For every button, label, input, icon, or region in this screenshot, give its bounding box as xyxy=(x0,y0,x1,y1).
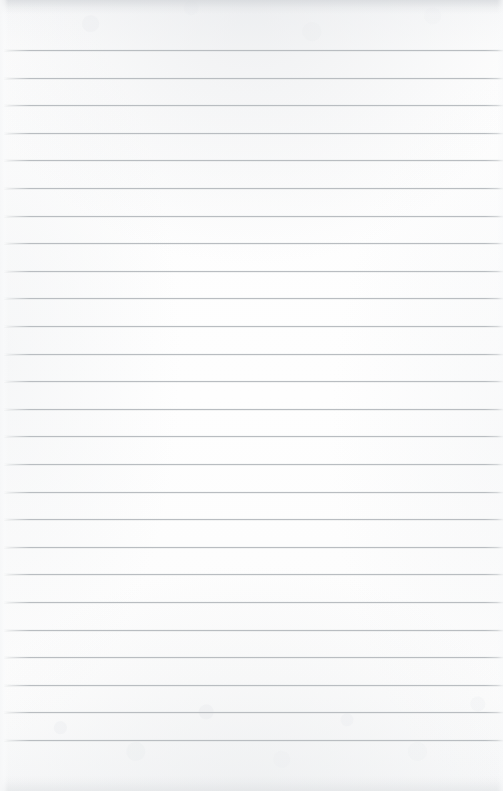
rule-line xyxy=(4,216,503,217)
rule-line xyxy=(4,160,503,161)
rule-line xyxy=(4,133,503,134)
rule-line xyxy=(4,740,503,741)
rule-line xyxy=(4,78,503,79)
rule-line xyxy=(4,243,503,244)
rule-line xyxy=(4,409,503,410)
rule-line xyxy=(4,354,503,355)
rule-line xyxy=(4,657,503,658)
rule-line xyxy=(4,519,503,520)
rule-line xyxy=(4,436,503,437)
rule-line xyxy=(4,547,503,548)
rule-line xyxy=(4,464,503,465)
rule-line xyxy=(4,326,503,327)
scanned-page xyxy=(0,0,503,791)
rule-line xyxy=(4,492,503,493)
rule-line xyxy=(4,712,503,713)
rule-line xyxy=(4,381,503,382)
rule-line xyxy=(4,105,503,106)
rule-line xyxy=(4,188,503,189)
ruled-lines-layer xyxy=(0,0,503,791)
rule-line xyxy=(4,271,503,272)
rule-line xyxy=(4,602,503,603)
rule-line xyxy=(4,574,503,575)
rule-line xyxy=(4,50,503,51)
rule-line xyxy=(4,630,503,631)
rule-line xyxy=(4,685,503,686)
rule-line xyxy=(4,298,503,299)
